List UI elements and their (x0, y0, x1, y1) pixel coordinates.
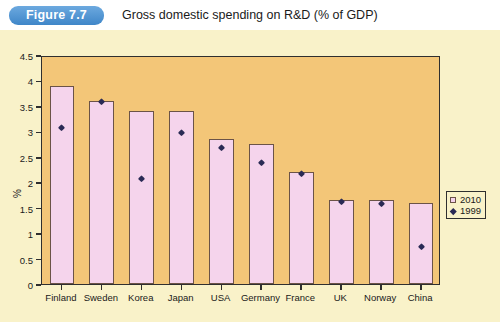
x-tick-mark (340, 285, 342, 290)
bar-finland (50, 86, 75, 284)
x-tick-mark (141, 285, 143, 290)
legend-label-1999: 1999 (460, 205, 481, 216)
bar-norway (369, 200, 394, 284)
y-tick-mark (36, 132, 41, 134)
figure-number-badge: Figure 7.7 (9, 6, 104, 25)
legend-label-2010: 2010 (460, 194, 481, 205)
y-tick-mark (36, 284, 41, 286)
x-tick-label-norway: Norway (364, 292, 396, 303)
x-tick-mark (181, 285, 183, 290)
x-tick-mark (61, 285, 63, 290)
x-tick-label-finland: Finland (45, 292, 76, 303)
y-tick-mark (36, 81, 41, 83)
x-tick-mark (101, 285, 103, 290)
plot-area (41, 56, 440, 285)
legend-diamond-icon (450, 208, 456, 214)
y-tick-mark (36, 259, 41, 261)
y-tick-label-4: 4 (28, 76, 33, 87)
chart-legend: 2010 1999 (446, 191, 486, 219)
y-tick-mark (36, 55, 41, 57)
x-tick-label-uk: UK (334, 292, 347, 303)
bar-france (289, 172, 314, 284)
y-tick-mark (36, 157, 41, 159)
figure-title: Gross domestic spending on R&D (% of GDP… (122, 8, 378, 22)
chart-figure: % 2010 1999 FinlandSwedenKoreaJapanUSAGe… (0, 30, 500, 322)
x-tick-label-japan: Japan (168, 292, 194, 303)
y-tick-label-0: 0 (28, 280, 33, 291)
y-tick-label-1.5: 1.5 (20, 203, 33, 214)
legend-item-1999: 1999 (450, 205, 481, 216)
y-tick-mark (36, 106, 41, 108)
x-tick-label-usa: USA (211, 292, 231, 303)
x-tick-label-sweden: Sweden (84, 292, 118, 303)
bar-uk (329, 200, 354, 284)
figure-page: Figure 7.7 Gross domestic spending on R&… (0, 0, 500, 322)
legend-square-icon (450, 197, 456, 203)
y-tick-label-3: 3 (28, 127, 33, 138)
figure-header: Figure 7.7 Gross domestic spending on R&… (0, 0, 500, 30)
y-tick-label-1: 1 (28, 229, 33, 240)
bar-japan (169, 111, 194, 284)
bar-usa (209, 139, 234, 284)
x-tick-mark (380, 285, 382, 290)
y-tick-label-2: 2 (28, 178, 33, 189)
x-tick-label-germany: Germany (241, 292, 280, 303)
x-tick-label-china: China (408, 292, 433, 303)
y-tick-mark (36, 208, 41, 210)
x-tick-mark (300, 285, 302, 290)
y-tick-label-4.5: 4.5 (20, 51, 33, 62)
y-axis-label: % (12, 189, 23, 198)
x-tick-mark (420, 285, 422, 290)
x-tick-mark (260, 285, 262, 290)
x-tick-mark (221, 285, 223, 290)
bar-sweden (89, 101, 114, 284)
x-tick-label-korea: Korea (128, 292, 153, 303)
legend-item-2010: 2010 (450, 194, 481, 205)
y-tick-mark (36, 182, 41, 184)
y-tick-label-2.5: 2.5 (20, 152, 33, 163)
y-tick-mark (36, 233, 41, 235)
y-tick-label-3.5: 3.5 (20, 101, 33, 112)
y-tick-label-0.5: 0.5 (20, 254, 33, 265)
x-tick-label-france: France (286, 292, 316, 303)
bar-korea (129, 111, 154, 284)
